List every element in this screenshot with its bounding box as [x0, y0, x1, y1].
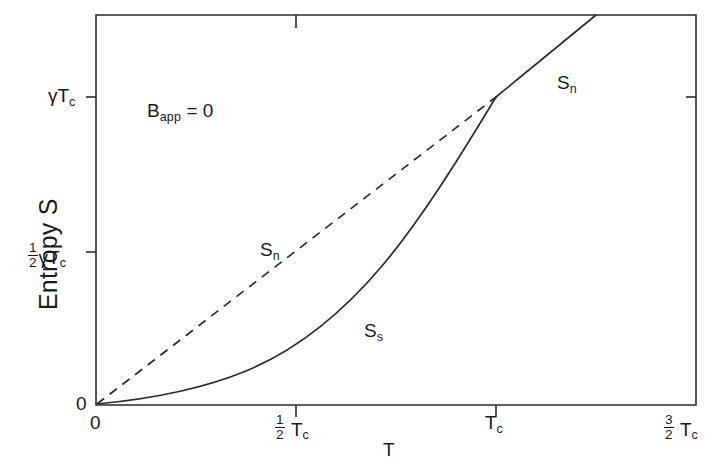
xtick-label-tc: Tc: [485, 413, 503, 435]
subscript-app: app: [160, 110, 182, 124]
curve-label-ss: Ss: [364, 321, 383, 343]
fraction-numerator: 1: [275, 413, 285, 428]
xtick-label-half-tc: 12 Tc: [275, 413, 309, 442]
fraction-denominator: 2: [664, 428, 674, 442]
s-symbol: S: [557, 72, 570, 93]
fraction-denominator: 2: [28, 256, 38, 270]
b-symbol: B: [147, 100, 160, 121]
ytick-label-gamma-tc: γTc: [48, 86, 76, 108]
plot-canvas: [0, 0, 722, 466]
curve-sn-dashed: [97, 97, 496, 404]
xtick-label-zero: 0: [90, 413, 101, 432]
ytick-label-zero: 0: [76, 394, 87, 413]
s-symbol: S: [364, 320, 377, 341]
gamma-t-text: γT: [39, 247, 60, 268]
t-text: T: [485, 412, 497, 433]
entropy-vs-temperature-figure: Entropy S T γTc 12γTc 0 0 12 Tc Tc 32 Tc…: [0, 0, 722, 466]
fraction-one-half: 12: [275, 413, 285, 442]
equals-zero: = 0: [181, 100, 213, 121]
t-text: T: [680, 419, 692, 440]
plot-frame: [96, 15, 696, 405]
subscript-c: c: [60, 256, 66, 270]
fraction-numerator: 1: [28, 241, 38, 256]
x-axis-title: T: [383, 440, 395, 459]
fraction-denominator: 2: [275, 428, 285, 442]
ytick-label-half-gamma-tc: 12γTc: [28, 241, 66, 270]
subscript-c: c: [303, 428, 309, 442]
fraction-three-halves: 32: [664, 413, 674, 442]
fraction-numerator: 3: [664, 413, 674, 428]
s-symbol: S: [260, 239, 273, 260]
subscript-n: n: [273, 249, 280, 263]
subscript-c: c: [692, 428, 698, 442]
subscript-s: s: [377, 330, 383, 344]
subscript-c: c: [497, 422, 503, 436]
t-text: T: [291, 419, 303, 440]
curve-sn-solid-above-tc: [496, 15, 596, 97]
annotation-applied-field: Bapp = 0: [147, 101, 213, 123]
subscript-c: c: [69, 95, 75, 109]
fraction-one-half: 12: [28, 241, 38, 270]
curve-ss-solid: [97, 97, 496, 404]
xtick-label-three-halves-tc: 32 Tc: [664, 413, 698, 442]
curve-label-sn-above-tc: Sn: [557, 73, 577, 95]
curve-label-sn-dashed: Sn: [260, 240, 280, 262]
gamma-t-text: γT: [48, 85, 69, 106]
subscript-n: n: [570, 82, 577, 96]
